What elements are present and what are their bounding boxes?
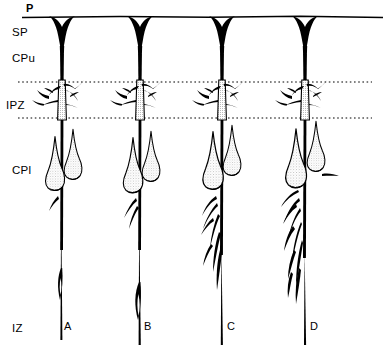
column-label-b: B [144, 320, 151, 332]
column-label-c: C [227, 320, 235, 332]
zone-label-iz: IZ [12, 322, 23, 334]
zone-label-p: P [26, 2, 34, 14]
zone-label-cpl: CPl [12, 164, 31, 176]
figure-panel: P SP CPu IPZ CPl IZ A B C D [0, 0, 392, 355]
neuron-drawing [0, 0, 392, 355]
zone-label-sp: SP [12, 26, 28, 38]
zone-label-ipz: IPZ [6, 99, 25, 111]
column-label-d: D [310, 320, 318, 332]
column-label-a: A [64, 320, 71, 332]
zone-label-cpu: CPu [12, 52, 35, 64]
